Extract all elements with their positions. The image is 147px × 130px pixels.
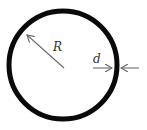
radius-label: R (52, 40, 62, 54)
ring-diagram: R d (0, 0, 147, 130)
thickness-label: d (93, 52, 101, 66)
ring (9, 11, 117, 119)
